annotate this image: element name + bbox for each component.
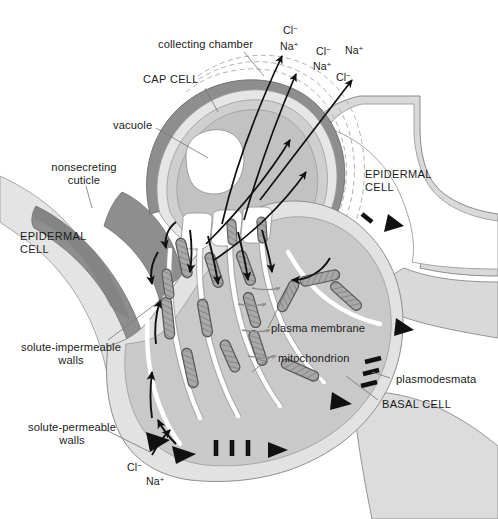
ion-species: Na <box>146 475 160 487</box>
salt-gland-figure: collecting chamber CAP CELL vacuole nons… <box>0 0 498 519</box>
ion-label-top-na-2: Na+ <box>345 42 363 57</box>
ion-label-top-cl-3: Cl− <box>336 69 351 84</box>
label-mitochondrion: mitochondrion <box>278 352 350 365</box>
ion-charge: − <box>293 24 297 33</box>
label-solute-permeable-line2: walls <box>22 434 122 447</box>
ion-charge: + <box>327 60 331 69</box>
ion-charge: − <box>326 45 330 54</box>
plasmodesma <box>362 214 372 222</box>
ion-label-top-na-3: Na+ <box>313 58 331 73</box>
ion-label-top-cl-2: Cl− <box>316 43 331 58</box>
label-nonsecreting-cuticle-line2: cuticle <box>30 174 138 187</box>
ion-charge: + <box>160 475 164 484</box>
ion-species: Na <box>280 40 294 52</box>
label-solute-impermeable-line1: solute-impermeable <box>16 341 126 354</box>
ion-charge: + <box>359 44 363 53</box>
wall-thickening-triangle <box>394 318 414 336</box>
label-epidermal-cell-right-line1: EPIDERMAL <box>365 168 432 181</box>
ion-label-bottom-cl-b1: Cl− <box>127 459 142 474</box>
ion-species: Na <box>313 60 327 72</box>
leader-nonsecreting-cuticle <box>86 186 92 208</box>
label-epidermal-cell-left-line2: CELL <box>20 243 49 256</box>
ion-label-top-na-1: Na+ <box>280 38 298 53</box>
ion-species: Cl <box>316 45 326 57</box>
ion-species: Na <box>345 44 359 56</box>
ion-charge: − <box>346 71 350 80</box>
label-epidermal-cell-left-line1: EPIDERMAL <box>20 230 87 243</box>
ion-charge: − <box>137 461 141 470</box>
label-cap-cell: CAP CELL <box>143 73 199 86</box>
label-nonsecreting-cuticle-line1: nonsecreting <box>30 161 138 174</box>
ion-charge: + <box>294 40 298 49</box>
label-solute-impermeable-line2: walls <box>16 354 126 367</box>
label-plasmodesmata: plasmodesmata <box>396 373 476 386</box>
label-plasma-membrane: plasma membrane <box>271 322 365 335</box>
ion-species: Cl <box>336 71 346 83</box>
label-basal-cell: BASAL CELL <box>382 398 451 411</box>
label-vacuole: vacuole <box>113 119 152 132</box>
label-collecting-chamber: collecting chamber <box>158 38 253 51</box>
label-epidermal-cell-right-line2: CELL <box>365 181 394 194</box>
label-solute-permeable-line1: solute-permeable <box>22 421 122 434</box>
wall-thickening-triangle <box>384 214 404 232</box>
ion-species: Cl <box>127 461 137 473</box>
mitochondrion <box>227 219 238 246</box>
ion-species: Cl <box>283 24 293 36</box>
ion-label-bottom-na-b1: Na+ <box>146 473 164 488</box>
ion-label-top-cl-1: Cl− <box>283 22 298 37</box>
